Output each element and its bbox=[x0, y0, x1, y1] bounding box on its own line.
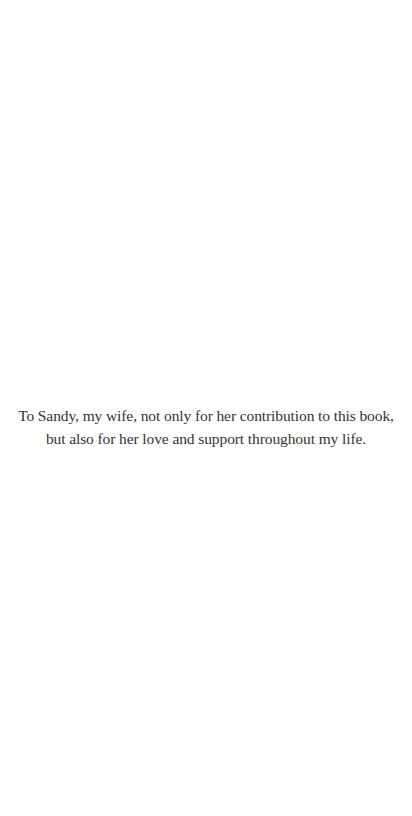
dedication-line-2: but also for her love and support throug… bbox=[0, 427, 412, 450]
dedication-line-1: To Sandy, my wife, not only for her cont… bbox=[0, 404, 412, 427]
dedication-text: To Sandy, my wife, not only for her cont… bbox=[0, 404, 412, 450]
book-page: To Sandy, my wife, not only for her cont… bbox=[0, 0, 412, 816]
